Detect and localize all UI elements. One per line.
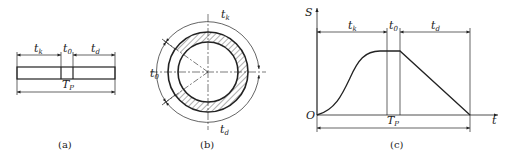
label-t0: t0: [63, 42, 72, 56]
diagram-canvas: tk t0 td TP (a) tk t0 td (b): [0, 0, 510, 160]
figure-b: tk t0 td (b): [150, 8, 266, 150]
caption-c: (c): [390, 139, 404, 150]
label-tk: tk: [348, 19, 357, 33]
caption-b: (b): [200, 139, 214, 150]
label-origin: O: [306, 109, 315, 122]
label-s-axis: S: [305, 6, 313, 19]
figure-a: tk t0 td TP (a): [17, 42, 115, 150]
label-t-axis: t: [492, 114, 497, 127]
label-t0: t0: [150, 67, 159, 81]
label-tk: tk: [34, 42, 43, 56]
label-td: td: [220, 123, 229, 137]
label-t0: t0: [389, 19, 398, 33]
label-td: td: [431, 19, 440, 33]
displacement-curve: [317, 51, 470, 115]
label-tp: TP: [62, 78, 74, 92]
label-tk: tk: [221, 8, 230, 22]
label-td: td: [91, 42, 100, 56]
figure-c: S t O tk t0 td TP (c): [305, 6, 498, 150]
caption-a: (a): [58, 139, 72, 150]
label-tp: TP: [387, 114, 399, 128]
